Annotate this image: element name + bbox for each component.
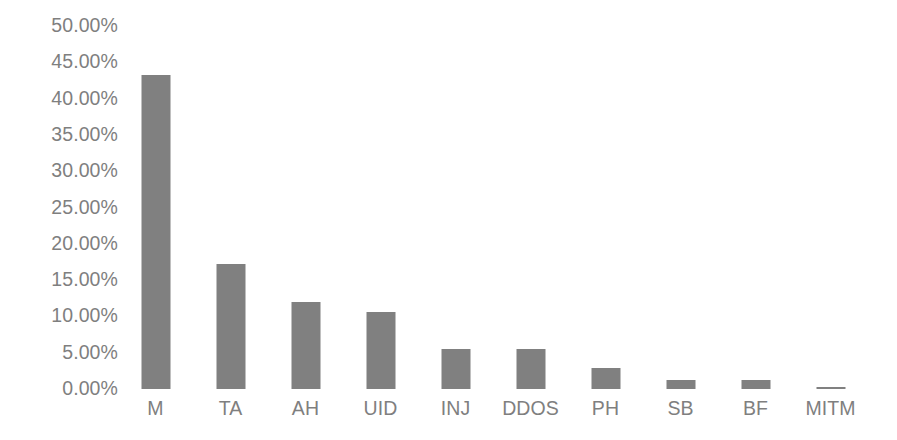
x-axis-tick-label: TA: [219, 397, 243, 419]
x-axis-tick-slot: PH: [568, 396, 643, 420]
y-axis-tick-label: 40.00%: [0, 89, 118, 109]
bar-slot: [493, 75, 568, 389]
bar-ah[interactable]: [291, 302, 320, 389]
bar-slot: [268, 75, 343, 389]
plot-area: [118, 0, 897, 440]
bar-m[interactable]: [141, 75, 170, 389]
x-axis-tick-slot: DDOS: [493, 396, 568, 420]
y-axis-tick-label: 0.00%: [0, 379, 118, 399]
bar-slot: [793, 75, 868, 389]
bar-slot: [643, 75, 718, 389]
x-axis-tick-label: MITM: [805, 397, 855, 419]
x-axis-tick-label: BF: [743, 397, 768, 419]
y-axis-tick-label: 15.00%: [0, 270, 118, 290]
bar-chart: 50.00%45.00%40.00%35.00%30.00%25.00%20.0…: [0, 0, 897, 440]
x-axis-tick-slot: SB: [643, 396, 718, 420]
bar-ta[interactable]: [216, 264, 245, 389]
x-axis-tick-slot: INJ: [418, 396, 493, 420]
x-axis-tick-slot: M: [118, 396, 193, 420]
x-axis-tick-label: UID: [364, 397, 398, 419]
bar-mitm[interactable]: [816, 387, 845, 389]
x-axis-tick-label: SB: [667, 397, 693, 419]
bar-uid[interactable]: [366, 312, 395, 389]
x-axis-tick-slot: UID: [343, 396, 418, 420]
y-axis-tick-label: 20.00%: [0, 234, 118, 254]
x-axis-tick-label: PH: [592, 397, 619, 419]
x-axis-tick-slot: AH: [268, 396, 343, 420]
bar-slot: [118, 75, 193, 389]
x-axis-tick-slot: BF: [718, 396, 793, 420]
bar-inj[interactable]: [441, 349, 470, 389]
bar-slot: [193, 75, 268, 389]
y-axis-tick-label: 50.00%: [0, 16, 118, 36]
x-axis-tick-label: INJ: [441, 397, 471, 419]
y-axis-tick-label: 30.00%: [0, 161, 118, 181]
bar-slot: [568, 75, 643, 389]
bar-slot: [718, 75, 793, 389]
x-axis-tick-slot: MITM: [793, 396, 868, 420]
bar-slot: [343, 75, 418, 389]
y-axis-tick-label: 5.00%: [0, 343, 118, 363]
x-axis-tick-label: M: [147, 397, 163, 419]
y-axis-tick-label: 10.00%: [0, 306, 118, 326]
x-axis-tick-label: DDOS: [502, 397, 559, 419]
x-axis-tick-label: AH: [292, 397, 319, 419]
y-axis-tick-label: 25.00%: [0, 198, 118, 218]
y-axis-tick-label: 45.00%: [0, 52, 118, 72]
x-axis-tick-slot: TA: [193, 396, 268, 420]
x-axis: MTAAHUIDINJDDOSPHSBBFMITM: [118, 396, 897, 440]
bar-slot: [418, 75, 493, 389]
y-axis-tick-label: 35.00%: [0, 125, 118, 145]
bar-sb[interactable]: [666, 380, 695, 389]
y-axis: 50.00%45.00%40.00%35.00%30.00%25.00%20.0…: [0, 0, 118, 440]
bar-bf[interactable]: [741, 380, 770, 389]
bar-ph[interactable]: [591, 368, 620, 389]
bar-ddos[interactable]: [516, 349, 545, 389]
